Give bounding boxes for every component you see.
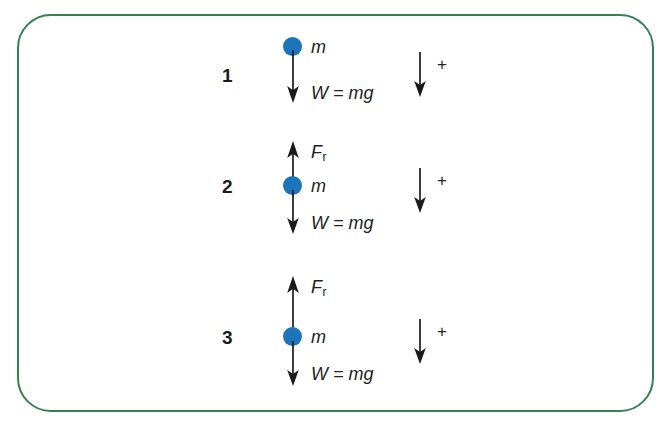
reference-direction-arrow-2 <box>411 168 429 214</box>
physics-figure: 1 m W = mg + 2 Fr m W = mg <box>0 0 671 433</box>
reference-direction-arrow-1 <box>411 52 429 98</box>
row-number-2: 2 <box>222 177 233 196</box>
mass-label-3: m <box>311 328 326 346</box>
resistive-force-label-2: Fr <box>311 143 326 161</box>
reference-direction-arrow-3 <box>411 319 429 365</box>
row-number-1: 1 <box>222 66 233 85</box>
positive-direction-sign-3: + <box>437 323 447 340</box>
weight-label-2: W = mg <box>311 214 374 232</box>
resistive-force-symbol-2: F <box>311 142 322 162</box>
row-number-3: 3 <box>222 328 233 347</box>
weight-arrow-3 <box>284 341 302 387</box>
positive-direction-sign-1: + <box>437 56 447 73</box>
weight-arrow-2 <box>284 190 302 235</box>
mass-label-1: m <box>311 38 326 56</box>
resistive-force-label-3: Fr <box>311 278 326 296</box>
weight-label-3: W = mg <box>311 365 374 383</box>
positive-direction-sign-2: + <box>437 172 447 189</box>
resistive-force-symbol-3: F <box>311 277 322 297</box>
resistive-force-subscript-3: r <box>323 285 327 299</box>
resistive-force-subscript-2: r <box>323 150 327 164</box>
weight-label-1: W = mg <box>311 84 374 102</box>
weight-arrow-1 <box>284 50 302 104</box>
mass-label-2: m <box>311 177 326 195</box>
